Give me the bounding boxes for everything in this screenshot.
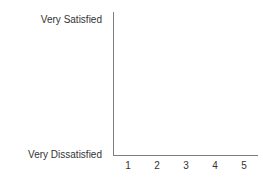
plot-area [114, 12, 258, 155]
x-tick-label-2: 2 [149, 159, 165, 173]
x-tick-label-4: 4 [207, 159, 223, 173]
y-axis-top-label: Very Satisfied [41, 14, 102, 26]
x-axis-line [113, 155, 258, 156]
y-axis-bottom-label: Very Dissatisfied [28, 149, 102, 161]
x-tick-label-5: 5 [236, 159, 252, 173]
x-tick-label-3: 3 [178, 159, 194, 173]
chart-container: Very Satisfied Very Dissatisfied 1 2 3 4… [0, 0, 263, 181]
x-axis-tick-labels: 1 2 3 4 5 [113, 159, 258, 175]
x-tick-label-1: 1 [120, 159, 136, 173]
